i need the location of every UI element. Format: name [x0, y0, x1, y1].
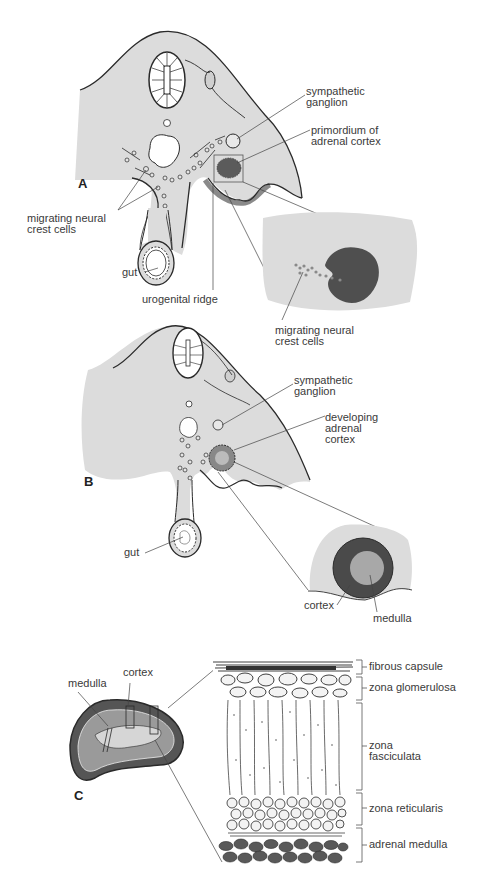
- label-a-urogenital-ridge: urogenital ridge: [142, 294, 218, 305]
- label-c-medulla: medulla: [68, 678, 107, 689]
- label-zone-glomerulosa: zona glomerulosa: [369, 682, 456, 693]
- panel-label-c: C: [74, 788, 83, 803]
- label-a-migrating-neural-crest-cells: migrating neural crest cells: [27, 213, 106, 235]
- label-b-cortex: cortex: [304, 600, 334, 611]
- label-b-gut: gut: [124, 547, 139, 558]
- label-a-primordium-adrenal-cortex: primordium of adrenal cortex: [311, 125, 381, 147]
- label-a-inset-migrating-cells: migrating neural crest cells: [275, 325, 354, 347]
- label-zone-fasciculata: zona fasciculata: [369, 740, 421, 762]
- label-zone-fibrous-capsule: fibrous capsule: [369, 661, 443, 672]
- label-c-cortex: cortex: [123, 667, 153, 678]
- panel-label-a: A: [78, 176, 87, 191]
- label-b-medulla: medulla: [373, 613, 412, 624]
- label-zone-reticularis: zona reticularis: [369, 803, 443, 814]
- label-a-sympathetic-ganglion: sympathetic ganglion: [306, 86, 365, 108]
- label-b-sympathetic-ganglion: sympathetic ganglion: [294, 375, 353, 397]
- label-zone-adrenal-medulla: adrenal medulla: [369, 839, 447, 850]
- label-b-developing-adrenal-cortex: developing adrenal cortex: [325, 412, 378, 445]
- panel-label-b: B: [84, 474, 93, 489]
- label-a-gut: gut: [122, 267, 137, 278]
